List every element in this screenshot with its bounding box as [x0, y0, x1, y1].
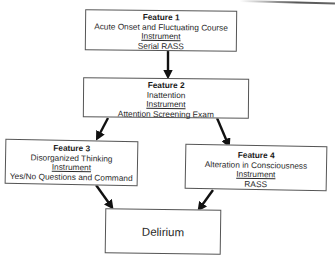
feature-2-instrument: Attention Screening Exam — [84, 109, 248, 120]
feature-1-box: Feature 1 Acute Onset and Fluctuating Co… — [85, 9, 237, 52]
feature-3-box: Feature 3 Disorganized Thinking Instrume… — [5, 139, 139, 186]
feature-4-instrument: RASS — [186, 179, 326, 191]
delirium-label: Delirium — [142, 226, 184, 239]
arrow-feature2-to-feature4 — [217, 118, 228, 144]
arrow-feature3-to-delirium — [96, 185, 111, 206]
feature-4-box: Feature 4 Alteration in Consciousness In… — [185, 144, 328, 191]
arrow-feature4-to-delirium — [200, 190, 213, 208]
delirium-box: Delirium — [105, 208, 222, 255]
feature-1-instrument: Serial RASS — [86, 41, 236, 52]
feature-3-instrument: Yes/No Questions and Command — [6, 172, 137, 184]
feature-2-box: Feature 2 Inattention Instrument Attenti… — [83, 77, 249, 118]
arrow-feature2-to-feature3 — [98, 118, 108, 137]
